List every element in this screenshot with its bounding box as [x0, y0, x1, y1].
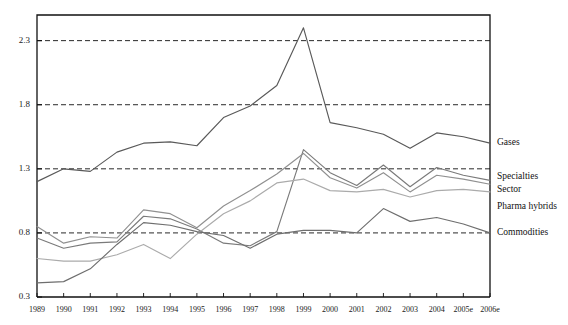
series-line-commodities: [37, 209, 490, 283]
series-label-gases: Gases: [497, 137, 520, 147]
series-label-commodities: Commodities: [497, 227, 548, 237]
x-axis-label: 2006e: [470, 305, 510, 314]
series-label-specialties: Specialties: [497, 171, 538, 181]
y-axis-label: 0.3: [4, 291, 30, 301]
series-label-pharma-hybrids: Pharma hybrids: [497, 201, 557, 211]
line-chart: 0.30.81.31.82.3 198919901991199219931994…: [0, 0, 568, 325]
y-axis-label: 0.8: [4, 227, 30, 237]
series-line-specialties: [37, 150, 490, 249]
gridlines: [37, 41, 490, 233]
plot-area: [0, 0, 568, 325]
series-label-sector: Sector: [497, 184, 521, 194]
y-axis-label: 2.3: [4, 35, 30, 45]
y-axis-label: 1.8: [4, 99, 30, 109]
y-axis-label: 1.3: [4, 163, 30, 173]
series-line-sector: [37, 153, 490, 243]
series-lines: [37, 28, 490, 283]
